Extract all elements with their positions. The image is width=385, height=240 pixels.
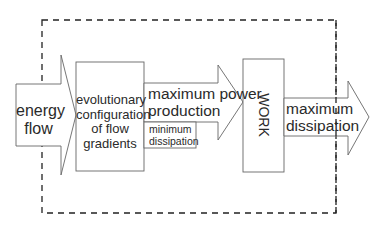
max-power-label-line2: production xyxy=(148,102,262,119)
min-dissipation-label: minimum dissipation xyxy=(149,124,199,148)
max-dissipation-label-line1: maximum xyxy=(286,100,350,117)
work-label: WORK xyxy=(256,91,272,139)
energy-flow-label: energy flow xyxy=(16,102,61,138)
energy-flow-label-line2: flow xyxy=(16,120,61,138)
energy-flow-label-line1: energy xyxy=(16,102,61,120)
max-dissipation-label: maximum dissipation xyxy=(286,100,350,135)
min-dissipation-label-line2: dissipation xyxy=(149,136,199,148)
evolutionary-label-line4: gradients xyxy=(76,137,144,152)
evolutionary-configuration-label: evolutionary configuration of flow gradi… xyxy=(76,93,144,151)
max-dissipation-label-line2: dissipation xyxy=(286,117,350,134)
min-dissipation-label-line1: minimum xyxy=(149,124,199,136)
evolutionary-label-line1: evolutionary xyxy=(76,93,144,108)
evolutionary-label-line3: of flow xyxy=(76,122,144,137)
max-power-label: maximum power production xyxy=(148,85,262,120)
evolutionary-label-line2: configuration xyxy=(76,108,144,123)
max-power-label-line1: maximum power xyxy=(148,85,262,102)
